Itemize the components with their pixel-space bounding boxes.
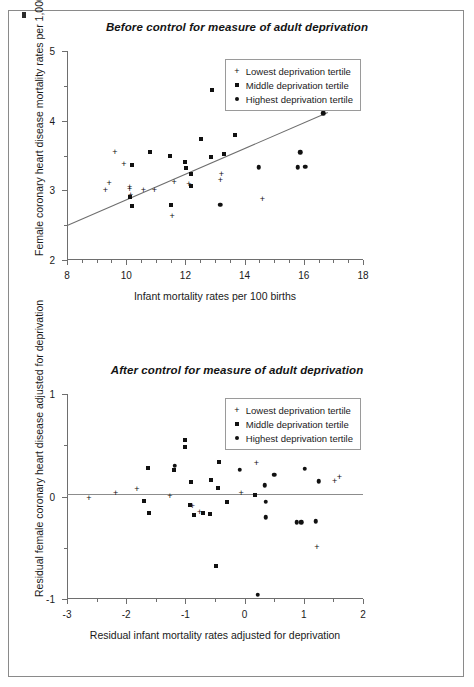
- data-point-square: [189, 184, 193, 188]
- data-point-circle: [218, 203, 223, 208]
- x-tick: [156, 260, 157, 263]
- y-tick: [64, 156, 67, 157]
- x-tick-label: 16: [298, 270, 309, 281]
- x-tick-label: 10: [121, 270, 132, 281]
- x-tick: [215, 260, 216, 263]
- data-point-plus: [102, 188, 109, 195]
- data-point-square: [233, 133, 237, 137]
- y-tick-label: 4: [49, 115, 55, 126]
- legend-marker-circle-icon: [231, 97, 243, 101]
- data-point-square: [208, 512, 212, 516]
- data-point-plus: [85, 495, 92, 502]
- panel-after-control: After control for measure of adult depri…: [9, 356, 465, 676]
- legend-row: Middle deprivation tertile: [231, 78, 353, 92]
- legend-row: +Lowest deprivation tertile: [231, 64, 353, 78]
- x-tick: [363, 599, 364, 604]
- x-tick-label: 8: [64, 270, 70, 281]
- legend-row: Highest deprivation tertile: [231, 431, 353, 445]
- x-tick: [259, 260, 260, 263]
- data-point-plus: [238, 491, 245, 498]
- y-tick: [62, 599, 67, 600]
- x-axis-title-top: Infant mortality rates per 100 births: [67, 290, 363, 302]
- x-tick-label: -2: [122, 609, 131, 620]
- data-point-plus: [259, 197, 266, 204]
- x-tick: [185, 260, 186, 265]
- data-point-circle: [264, 515, 269, 520]
- legend-label: Lowest deprivation tertile: [243, 66, 351, 77]
- x-tick: [141, 260, 142, 263]
- data-point-circle: [303, 164, 308, 169]
- data-point-square: [172, 468, 176, 472]
- legend-row: Middle deprivation tertile: [231, 417, 353, 431]
- data-point-plus: [169, 213, 176, 220]
- data-point-plus: [111, 149, 118, 156]
- data-point-circle: [298, 150, 303, 155]
- data-point-square: [225, 500, 229, 504]
- x-tick: [289, 260, 290, 263]
- data-point-square: [188, 503, 192, 507]
- data-point-plus: [253, 460, 260, 467]
- y-tick: [62, 51, 67, 52]
- data-point-plus: [217, 177, 224, 184]
- y-tick: [62, 260, 67, 261]
- data-point-square: [148, 150, 152, 154]
- data-point-square: [199, 137, 203, 141]
- data-point-circle: [264, 499, 269, 504]
- data-point-plus: [133, 487, 140, 494]
- x-tick: [97, 260, 98, 263]
- panel-title-after: After control for measure of adult depri…: [9, 364, 465, 376]
- x-tick-label: -3: [63, 609, 72, 620]
- data-point-square: [184, 166, 188, 170]
- data-point-square: [216, 486, 220, 490]
- legend-marker-plus-icon: +: [231, 67, 243, 76]
- page-artifact-mark: [22, 12, 26, 18]
- x-tick-label: 0: [242, 609, 248, 620]
- legend-marker-circle-icon: [231, 436, 243, 440]
- x-tick: [319, 260, 320, 263]
- x-tick: [304, 599, 305, 604]
- x-tick: [67, 599, 68, 604]
- data-point-circle: [316, 479, 321, 484]
- data-point-circle: [299, 520, 304, 525]
- data-point-square: [201, 511, 205, 515]
- x-tick-label: -1: [181, 609, 190, 620]
- data-point-square: [253, 493, 257, 497]
- x-tick: [348, 260, 349, 263]
- data-point-plus: [167, 493, 174, 500]
- data-point-square: [209, 478, 213, 482]
- y-axis-line-bottom: [67, 394, 68, 599]
- data-point-circle: [255, 593, 260, 598]
- data-point-square: [183, 160, 187, 164]
- data-point-circle: [303, 467, 308, 472]
- panel-before-control: Before control for measure of adult depr…: [9, 13, 465, 343]
- data-point-square: [189, 172, 193, 176]
- x-tick: [200, 260, 201, 263]
- data-point-circle: [296, 165, 301, 170]
- y-tick-label: 5: [49, 46, 55, 57]
- data-point-square: [222, 152, 226, 156]
- data-point-square: [217, 460, 221, 464]
- y-tick: [62, 190, 67, 191]
- legend-label: Lowest deprivation tertile: [243, 405, 351, 416]
- x-tick: [111, 260, 112, 263]
- x-tick-label: 1: [301, 609, 307, 620]
- y-tick: [62, 394, 67, 395]
- data-point-plus: [106, 181, 113, 188]
- x-tick: [245, 599, 246, 604]
- legend-marker-square-icon: [231, 83, 243, 87]
- x-tick: [82, 260, 83, 263]
- legend-marker-plus-icon: +: [231, 406, 243, 415]
- x-tick: [304, 260, 305, 265]
- data-point-square: [142, 499, 146, 503]
- legend-label: Middle deprivation tertile: [243, 419, 349, 430]
- regression-trend-line: [67, 112, 328, 226]
- y-tick: [62, 121, 67, 122]
- x-tick: [274, 260, 275, 263]
- data-point-square: [192, 513, 196, 517]
- legend-top: +Lowest deprivation tertileMiddle depriv…: [225, 59, 361, 111]
- x-tick: [363, 260, 364, 265]
- data-point-square: [169, 203, 173, 207]
- data-point-plus: [336, 475, 343, 482]
- x-tick: [245, 260, 246, 265]
- x-tick-label: 18: [357, 270, 368, 281]
